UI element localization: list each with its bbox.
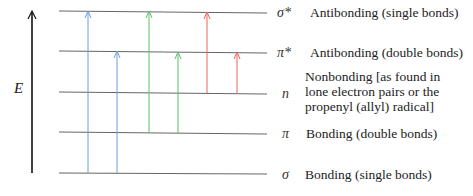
description-sigma: Bonding (single bonds) [305,167,432,182]
description-n-line-3: propenyl (allyl) radical] [305,99,440,114]
level-line-n [59,92,267,94]
symbol-pi-star: π* [277,45,291,61]
description-pi: Bonding (double bonds) [306,126,437,141]
description-n-line-1: Nonbonding [as found in [305,69,440,84]
level-line-sigma-star [59,11,267,13]
level-line-sigma [59,173,267,174]
energy-axis-arrow [28,11,36,173]
level-line-pi [59,132,267,134]
symbol-sigma-star: σ* [277,5,291,21]
description-pi-star: Antibonding (double bonds) [310,45,463,60]
description-n: Nonbonding [as found in lone electron pa… [305,69,440,114]
symbol-sigma: σ [282,167,289,183]
transition-sigma-to-pi-star [114,51,120,173]
symbol-n: n [282,86,289,102]
symbol-pi: π [282,126,289,142]
energy-axis-label: E [14,80,23,97]
transition-pi-to-pi-star [175,52,181,133]
description-n-line-2: lone electron pairs or the [305,84,440,99]
transition-pi-to-sigma-star [146,11,152,133]
description-sigma-star: Antibonding (single bonds) [310,5,459,20]
transition-n-to-pi-star [234,52,240,93]
level-line-pi-star [59,51,267,53]
